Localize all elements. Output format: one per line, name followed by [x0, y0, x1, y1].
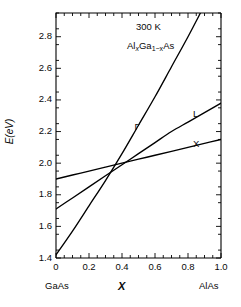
y-tick-label: 2.8	[22, 31, 52, 41]
y-tick-label: 1.8	[22, 189, 52, 199]
y-tick-label: 2.0	[22, 158, 52, 168]
y-axis-title-symbol: E	[4, 138, 15, 145]
y-tick-label: 2.2	[22, 126, 52, 136]
x-axis-left-endpoint-label: GaAs	[45, 280, 69, 291]
y-tick-label: 2.4	[22, 94, 52, 104]
x-tick-label: 0	[41, 262, 71, 272]
curve-label-l: L	[193, 108, 198, 119]
x-tick-label: 0.6	[140, 262, 170, 272]
y-tick-label: 2.6	[22, 63, 52, 73]
formula-as: As	[163, 40, 174, 51]
x-axis-title: X	[118, 280, 125, 292]
x-tick-label: 0.4	[107, 262, 137, 272]
x-axis-right-endpoint-label: AlAs	[199, 280, 219, 291]
y-tick-label: 1.6	[22, 221, 52, 231]
x-tick-label: 0.8	[173, 262, 203, 272]
y-axis-title-units: (eV)	[4, 119, 15, 138]
bandgap-chart-figure: 1.41.61.82.02.22.42.62.8 00.20.40.60.81.…	[0, 0, 241, 307]
y-axis-title: E(eV)	[4, 111, 15, 153]
curve-label-gamma: Γ	[135, 121, 140, 132]
curve-label-x: X	[193, 138, 199, 149]
temperature-annotation: 300 K	[136, 21, 161, 32]
x-tick-label: 1.0	[206, 262, 236, 272]
x-tick-label: 0.2	[74, 262, 104, 272]
formula-ga: Ga	[139, 40, 152, 51]
formula-sub-1mx: 1−x	[152, 45, 163, 52]
material-formula-annotation: AlxGa1−xAs	[127, 40, 174, 52]
y-tick-label: 1.4	[22, 253, 52, 263]
